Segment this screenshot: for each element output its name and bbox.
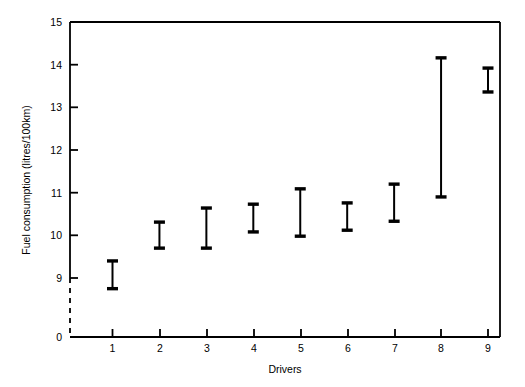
y-tick-label-10: 10 — [50, 229, 62, 241]
y-tick-label-11: 11 — [51, 187, 62, 199]
x-tick-label-3: 3 — [204, 342, 210, 354]
x-tick-label-6: 6 — [345, 342, 351, 354]
x-axis-tick-labels: 1 2 3 4 5 6 7 8 9 — [110, 342, 492, 354]
error-bar-chart: 15 14 13 12 11 10 9 0 Fuel consumption (… — [0, 0, 525, 387]
x-tick-label-7: 7 — [392, 342, 398, 354]
y-axis-title: Fuel consumption (litres/100km) — [20, 105, 32, 254]
chart-container: 15 14 13 12 11 10 9 0 Fuel consumption (… — [0, 0, 525, 387]
error-bar-driver-6 — [342, 203, 353, 230]
error-bar-driver-1 — [107, 261, 118, 289]
y-tick-label-9: 9 — [56, 272, 62, 284]
error-bar-driver-7 — [389, 184, 400, 221]
y-tick-label-13: 13 — [50, 101, 62, 113]
x-tick-label-2: 2 — [157, 342, 163, 354]
x-tick-label-5: 5 — [298, 342, 304, 354]
y-tick-label-15: 15 — [50, 16, 62, 28]
x-tick-label-4: 4 — [251, 342, 257, 354]
plot-frame — [70, 22, 500, 337]
error-bar-driver-4 — [248, 204, 259, 232]
y-tick-label-0: 0 — [56, 331, 62, 343]
x-tick-label-9: 9 — [485, 342, 491, 354]
y-axis-ticks — [70, 22, 78, 278]
error-bar-driver-3 — [201, 208, 212, 248]
x-tick-label-1: 1 — [110, 342, 116, 354]
x-tick-label-8: 8 — [438, 342, 444, 354]
error-bar-series — [107, 58, 494, 289]
error-bar-driver-5 — [295, 189, 306, 236]
y-tick-label-12: 12 — [50, 144, 62, 156]
error-bar-driver-9 — [483, 68, 494, 92]
error-bar-driver-8 — [436, 58, 447, 197]
y-axis-tick-labels: 15 14 13 12 11 10 9 0 — [50, 16, 62, 343]
x-axis-title: Drivers — [268, 363, 301, 375]
error-bar-driver-2 — [154, 222, 165, 248]
x-axis-ticks — [113, 329, 489, 337]
y-tick-label-14: 14 — [50, 59, 62, 71]
